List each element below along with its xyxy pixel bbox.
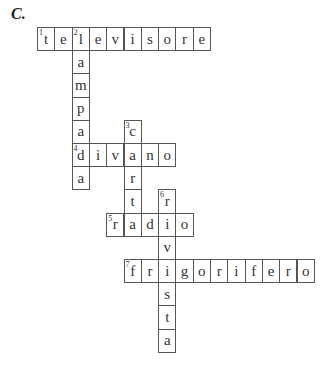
crossword-cell: v	[106, 27, 124, 51]
cell-letter: t	[131, 193, 135, 210]
cell-letter: e	[60, 31, 67, 48]
crossword-cell: m	[72, 73, 90, 97]
crossword-cell: e	[89, 27, 107, 51]
cell-letter: o	[181, 216, 189, 233]
cell-letter: s	[147, 31, 153, 48]
crossword-cell: r	[279, 259, 297, 283]
cell-letter: e	[199, 31, 206, 48]
crossword-cell: a	[72, 120, 90, 144]
cell-letter: s	[164, 286, 170, 303]
cell-letter: o	[163, 147, 171, 164]
cell-letter: d	[146, 216, 154, 233]
cell-letter: i	[234, 263, 238, 280]
crossword-cell: c3	[124, 120, 142, 144]
cell-letter: a	[77, 123, 84, 140]
crossword-cell: s	[141, 27, 159, 51]
crossword-cell: d	[141, 213, 159, 237]
clue-number: 7	[126, 260, 130, 269]
cell-letter: a	[77, 54, 84, 71]
cell-letter: i	[165, 263, 169, 280]
cell-letter: r	[165, 193, 170, 210]
cell-letter: a	[164, 332, 171, 349]
clue-number: 6	[160, 190, 164, 199]
cell-letter: p	[77, 100, 85, 117]
cell-letter: i	[96, 147, 100, 164]
crossword-cell: r6	[158, 189, 176, 213]
cell-letter: v	[112, 31, 120, 48]
crossword-cell: n	[141, 143, 159, 167]
crossword-cell: s	[158, 282, 176, 306]
cell-letter: a	[129, 147, 136, 164]
cell-letter: n	[146, 147, 154, 164]
crossword-cell: e	[262, 259, 280, 283]
cell-letter: d	[77, 147, 85, 164]
cell-letter: i	[131, 31, 135, 48]
cell-letter: r	[113, 216, 118, 233]
crossword-cell: a	[72, 50, 90, 74]
crossword-cell: r	[141, 259, 159, 283]
crossword-cell: e	[193, 27, 211, 51]
crossword-cell: a	[124, 213, 142, 237]
crossword-cell: o	[175, 213, 193, 237]
crossword-cell: i	[158, 259, 176, 283]
cell-letter: r	[182, 31, 187, 48]
crossword-cell: f7	[124, 259, 142, 283]
clue-number: 1	[39, 28, 43, 37]
cell-letter: r	[130, 170, 135, 187]
clue-number: 5	[108, 214, 112, 223]
crossword-cell: i	[227, 259, 245, 283]
crossword-cell: v	[158, 236, 176, 260]
cell-letter: r	[147, 263, 152, 280]
crossword-cell: e	[54, 27, 72, 51]
clue-number: 2	[74, 28, 78, 37]
crossword-cell: v	[106, 143, 124, 167]
crossword-cell: l2	[72, 27, 90, 51]
cell-letter: v	[163, 239, 171, 256]
cell-letter: f	[130, 263, 135, 280]
crossword-cell: r5	[106, 213, 124, 237]
clue-number: 3	[126, 121, 130, 130]
crossword-cell: i	[89, 143, 107, 167]
cell-letter: o	[198, 263, 206, 280]
cell-letter: t	[44, 31, 48, 48]
cell-letter: m	[75, 77, 87, 94]
cell-letter: o	[302, 263, 310, 280]
crossword-cell: o	[297, 259, 315, 283]
crossword-grid: t1el2evisoreampad4ac3artaivnor5dior6vist…	[0, 0, 332, 380]
crossword-cell: f	[245, 259, 263, 283]
crossword-cell: g	[175, 259, 193, 283]
crossword-cell: o	[158, 27, 176, 51]
cell-letter: e	[95, 31, 102, 48]
cell-letter: g	[181, 263, 189, 280]
cell-letter: f	[251, 263, 256, 280]
cell-letter: t	[165, 309, 169, 326]
crossword-cell: a	[124, 143, 142, 167]
crossword-cell: a	[158, 329, 176, 353]
crossword-cell: t1	[37, 27, 55, 51]
crossword-cell: o	[193, 259, 211, 283]
crossword-cell: p	[72, 97, 90, 121]
cell-letter: r	[217, 263, 222, 280]
crossword-cell: o	[158, 143, 176, 167]
cell-letter: c	[129, 123, 136, 140]
cell-letter: i	[165, 216, 169, 233]
cell-letter: v	[112, 147, 120, 164]
crossword-cell: i	[158, 213, 176, 237]
crossword-cell: r	[175, 27, 193, 51]
crossword-cell: a	[72, 166, 90, 190]
cell-letter: o	[163, 31, 171, 48]
crossword-cell: d4	[72, 143, 90, 167]
crossword-cell: r	[124, 166, 142, 190]
cell-letter: l	[79, 31, 83, 48]
crossword-cell: r	[210, 259, 228, 283]
cell-letter: e	[268, 263, 275, 280]
crossword-cell: t	[158, 305, 176, 329]
cell-letter: a	[77, 170, 84, 187]
crossword-cell: t	[124, 189, 142, 213]
clue-number: 4	[74, 144, 78, 153]
cell-letter: a	[129, 216, 136, 233]
cell-letter: r	[286, 263, 291, 280]
crossword-cell: i	[124, 27, 142, 51]
